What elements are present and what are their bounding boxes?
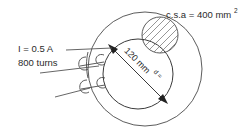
coil-turn-loops [79, 52, 106, 93]
diameter-value-text: 120 mm [122, 46, 152, 76]
cross-section-circle-group [138, 15, 180, 60]
turns-label-text: 800 turns [18, 57, 58, 68]
csa-label-text: c.s.a = 400 mm [166, 9, 231, 20]
current-label-text: I = 0.5 A [18, 43, 54, 54]
leader-line-core [55, 88, 90, 97]
csa-superscript-text: 2 [234, 7, 238, 14]
leader-lines [40, 48, 112, 97]
diameter-symbol-text: d = [152, 68, 164, 80]
leader-line-current [66, 48, 112, 50]
cross-section-circle [142, 17, 178, 53]
diagram-canvas: 120 mm d = I = 0.5 A 800 turns c.s.a = 4… [0, 0, 248, 134]
toroid-diagram: 120 mm d = I = 0.5 A 800 turns c.s.a = 4… [0, 0, 248, 134]
diameter-text-group: 120 mm d = [122, 43, 164, 85]
